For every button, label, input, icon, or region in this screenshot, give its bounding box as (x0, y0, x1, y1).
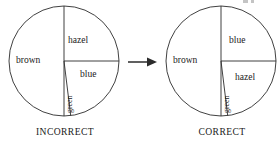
slice-label-upper-right: hazel (68, 36, 88, 46)
chart-incorrect: hazel blue green brown INCORRECT (0, 0, 130, 143)
slice-label-sliver: green (223, 96, 231, 113)
slice-label-sliver: green (66, 96, 74, 113)
rightwards-arrow-icon (128, 55, 158, 69)
slice-label-left: brown (16, 56, 40, 66)
slice-label-lower-right: blue (80, 70, 96, 80)
chart-caption-correct: CORRECT (157, 126, 280, 137)
pie-chart-comparison-figure: hazel blue green brown INCORRECT blue ha… (0, 0, 280, 143)
chart-caption-incorrect: INCORRECT (0, 126, 130, 137)
slice-label-lower-right: hazel (235, 73, 255, 83)
slice-label-left: brown (173, 56, 197, 66)
slice-label-upper-right: blue (229, 36, 245, 46)
chart-correct: blue hazel green brown CORRECT (157, 0, 280, 143)
scan-edge-artifact (243, 0, 257, 4)
